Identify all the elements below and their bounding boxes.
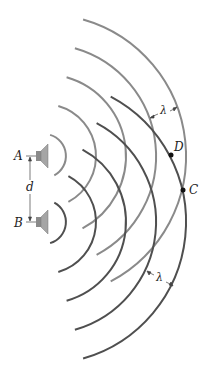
label-lambda-top: λ [160,105,167,116]
wavefront-b-1 [50,203,66,244]
speaker-b-icon [36,210,48,234]
label-point-d: D [174,141,184,153]
label-point-c: C [189,184,198,196]
label-d-separation: d [26,181,34,193]
label-b: B [14,217,23,229]
label-a: A [14,150,23,162]
label-lambda-bottom: λ [156,272,163,283]
wavefront-a-1 [50,135,66,176]
point-d-marker [169,153,174,158]
speaker-a-icon [36,144,48,168]
point-c-marker [181,188,186,193]
